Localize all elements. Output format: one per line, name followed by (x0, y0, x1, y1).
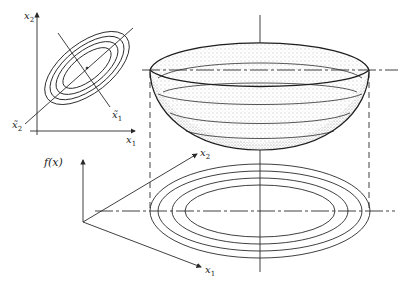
figure-canvas: x2 x1 x̃1 x̃2 (0, 0, 416, 289)
inset-rot-axis2-label: x̃2 (12, 119, 22, 133)
inset-y-axis-label: x2 (24, 10, 34, 24)
paraboloid-bowl (150, 43, 369, 150)
f-axis-label: f(x) (43, 156, 63, 169)
inset-rot-axis1-label: x̃1 (112, 109, 122, 123)
x1-axis-label: x1 (205, 264, 215, 278)
inset-contour-plot (25, 13, 142, 135)
inset-minor-axis (58, 33, 110, 107)
quadratic-bowl-diagram: x2 x1 x̃1 x̃2 (0, 0, 416, 289)
x2-axis-label: x2 (200, 147, 210, 161)
inset-x-axis-label: x1 (126, 134, 136, 148)
x2-axis (83, 154, 197, 222)
